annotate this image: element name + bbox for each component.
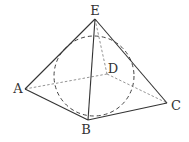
label-E: E xyxy=(90,3,100,18)
pyramid-diagram: E A B C D xyxy=(0,0,189,142)
edge-BC xyxy=(88,103,167,120)
label-D: D xyxy=(108,61,118,76)
edge-ED xyxy=(95,19,107,74)
label-B: B xyxy=(81,122,91,137)
label-A: A xyxy=(12,81,23,96)
edge-EB xyxy=(88,19,95,120)
edge-DC xyxy=(107,74,167,103)
edge-AB xyxy=(25,89,88,120)
label-C: C xyxy=(171,98,181,113)
